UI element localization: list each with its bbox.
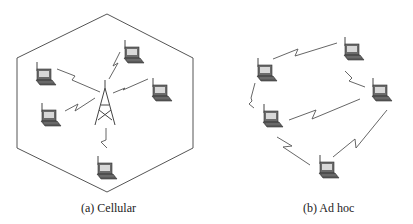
cell-tower-icon	[95, 80, 115, 125]
laptop-icon	[36, 62, 56, 85]
network-diagram	[0, 0, 413, 224]
laptop-icon	[344, 37, 364, 60]
laptop-icon	[152, 78, 172, 101]
laptop-icon	[263, 104, 283, 127]
wireless-links	[57, 52, 148, 148]
wireless-links	[249, 43, 387, 165]
laptop-icon	[372, 78, 392, 101]
caption-adhoc: (b) Ad hoc	[303, 201, 354, 216]
laptop-icon	[97, 156, 117, 179]
laptop-icon	[124, 40, 144, 63]
laptop-icon	[41, 103, 61, 126]
adhoc-panel	[249, 37, 392, 178]
cellular-panel	[17, 14, 193, 192]
laptop-icon	[257, 58, 277, 81]
laptop-icon	[319, 155, 339, 178]
caption-cellular: (a) Cellular	[81, 201, 136, 216]
